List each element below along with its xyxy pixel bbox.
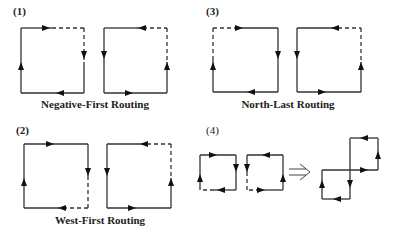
arrow-left-icon	[56, 90, 64, 96]
arrow-down-icon	[233, 164, 239, 172]
arrow-right-icon	[42, 25, 50, 31]
arrow-up-icon	[375, 151, 381, 159]
panel-label-2: (2)	[16, 124, 29, 136]
arrow-right-icon	[209, 152, 217, 158]
arrow-left-icon	[140, 141, 148, 147]
arrow-up-icon	[319, 180, 325, 188]
arrow-left-icon	[262, 152, 270, 158]
caption-north-last-routing: North-Last Routing	[232, 98, 344, 110]
panel-3-cycle-counterclockwise	[297, 28, 361, 92]
panel-3-cycle-clockwise	[213, 28, 278, 92]
arrow-left-icon	[217, 187, 225, 193]
arrow-right-icon	[46, 141, 54, 147]
arrow-up-icon	[18, 62, 24, 70]
panel-label-3: (3)	[206, 5, 219, 17]
arrow-up-icon	[210, 62, 216, 70]
panel-1-cycle-counterclockwise	[104, 28, 167, 93]
arrow-right-icon	[235, 25, 243, 31]
panel-1-cycle-clockwise	[21, 28, 84, 93]
routing-turn-model-diagram	[0, 0, 397, 239]
arrow-left-icon	[331, 25, 339, 31]
arrow-right-icon	[360, 167, 368, 173]
arrow-left-icon	[138, 25, 146, 31]
panel-2-cycle-counterclockwise	[107, 144, 171, 208]
arrow-down-icon	[101, 51, 107, 59]
arrow-up-icon	[280, 174, 286, 182]
arrow-down-icon	[294, 51, 300, 59]
panel-label-4: (4)	[206, 124, 219, 136]
arrow-up-icon	[168, 178, 174, 186]
arrow-up-icon	[164, 62, 170, 70]
arrow-left-icon	[333, 196, 341, 202]
caption-west-first-routing: West-First Routing	[44, 214, 156, 226]
implies-arrow-icon	[289, 164, 310, 180]
arrow-left-icon	[360, 135, 368, 141]
arrow-down-icon	[244, 164, 250, 172]
panel-4-combined-figure	[322, 138, 378, 199]
arrow-right-icon	[257, 187, 265, 193]
arrow-up-icon	[197, 174, 203, 182]
arrow-right-icon	[125, 90, 133, 96]
arrow-left-icon	[58, 205, 66, 211]
panel-2-cycle-clockwise	[24, 144, 88, 208]
arrow-left-icon	[247, 89, 255, 95]
arrow-right-icon	[318, 89, 326, 95]
panel-4-small-cycle-counterclockwise	[247, 155, 283, 190]
panel-label-1: (1)	[13, 5, 26, 17]
arrow-up-icon	[21, 178, 27, 186]
arrow-down-icon	[104, 168, 110, 176]
arrow-right-icon	[128, 205, 136, 211]
caption-negative-first-routing: Negative-First Routing	[30, 98, 160, 110]
arrow-down-icon	[275, 51, 281, 59]
arrow-down-icon	[85, 168, 91, 176]
arrow-down-icon	[81, 51, 87, 59]
arrow-down-icon	[347, 180, 353, 188]
arrow-up-icon	[358, 62, 364, 70]
panel-4-small-cycle-clockwise	[200, 155, 236, 190]
